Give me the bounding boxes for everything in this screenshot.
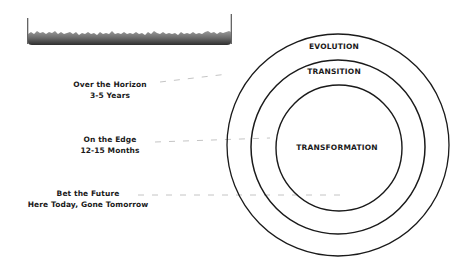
ring-label-evolution: EVOLUTION [309,42,359,51]
concentric-circles-diagram [0,0,470,268]
ring-label-transformation: TRANSFORMATION [296,143,378,152]
ring-label-transition: TRANSITION [307,67,361,76]
